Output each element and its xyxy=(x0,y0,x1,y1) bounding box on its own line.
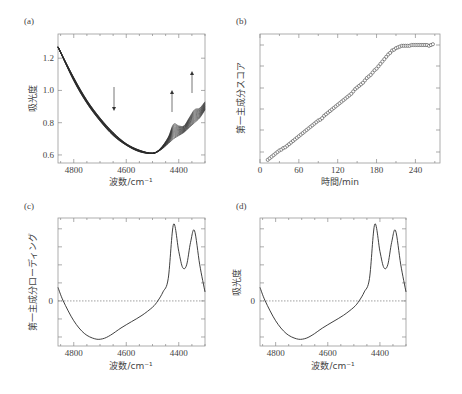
x-tick-label: 0 xyxy=(258,165,263,175)
x-tick-label: 4600 xyxy=(319,348,338,358)
panel-b-ticks: 060120180240 xyxy=(258,34,440,175)
score-point xyxy=(431,43,434,46)
x-tick-label: 60 xyxy=(294,165,304,175)
panel-c-loading xyxy=(58,224,205,340)
x-tick-label: 4400 xyxy=(371,348,390,358)
panel-b-ylabel: 第一主成分スコア xyxy=(235,62,246,134)
figure: (a) 4800460044000.60.81.01.2 波数/cm⁻¹ 吸光度… xyxy=(0,0,462,394)
panel-c-ticks: 4800460044000 xyxy=(49,218,206,358)
y-tick-label: 0 xyxy=(251,296,256,306)
x-tick-label: 240 xyxy=(409,165,423,175)
panel-a-ylabel: 吸光度 xyxy=(27,85,38,112)
spectrum-line xyxy=(58,47,205,153)
panel-b-xlabel: 時間/min xyxy=(321,177,359,187)
loading-line xyxy=(260,224,406,340)
spectrum-line xyxy=(58,47,205,154)
spectrum-line xyxy=(58,47,205,153)
spectrum-line xyxy=(58,47,205,154)
panel-b-frame xyxy=(260,34,440,163)
panel-d: (d) 4800460044000 波数/cm⁻¹ 吸光度 xyxy=(231,201,406,371)
spectrum-line xyxy=(58,47,205,153)
spectrum-line xyxy=(58,47,205,153)
x-tick-label: 4800 xyxy=(65,348,84,358)
spectrum-line xyxy=(58,47,205,153)
arrow-up-head-icon xyxy=(170,90,174,94)
panel-a-ticks: 4800460044000.60.81.01.2 xyxy=(43,34,205,175)
spectrum-line xyxy=(58,47,205,153)
x-tick-label: 4800 xyxy=(65,165,84,175)
panel-d-label: (d) xyxy=(236,201,247,211)
x-tick-label: 4600 xyxy=(117,165,136,175)
panel-c-label: (c) xyxy=(24,201,34,211)
panel-c-ylabel: 第一主成分ローディング xyxy=(27,233,38,331)
x-tick-label: 180 xyxy=(370,165,384,175)
x-tick-label: 4600 xyxy=(117,348,136,358)
x-tick-label: 4800 xyxy=(267,348,286,358)
panel-a-arrows xyxy=(112,71,194,112)
loading-line xyxy=(58,224,205,340)
panel-c-xlabel: 波数/cm⁻¹ xyxy=(109,360,152,371)
arrow-down-head-icon xyxy=(112,107,116,111)
y-tick-label: 0.8 xyxy=(43,118,55,128)
panel-d-spectrum xyxy=(260,224,406,340)
panel-d-frame xyxy=(260,218,406,346)
spectrum-line xyxy=(58,47,205,153)
spectrum-line xyxy=(58,47,205,153)
panel-b-label: (b) xyxy=(236,16,247,26)
y-tick-label: 0 xyxy=(49,296,54,306)
x-tick-label: 4400 xyxy=(170,348,189,358)
panel-d-xlabel: 波数/cm⁻¹ xyxy=(311,360,354,371)
x-tick-label: 120 xyxy=(331,165,345,175)
panel-d-ticks: 4800460044000 xyxy=(251,218,407,358)
y-tick-label: 0.6 xyxy=(43,150,55,160)
y-tick-label: 1.0 xyxy=(43,85,55,95)
panel-a-label: (a) xyxy=(24,16,34,26)
panel-a-xlabel: 波数/cm⁻¹ xyxy=(109,176,152,187)
spectrum-line xyxy=(58,47,205,154)
panel-d-ylabel: 吸光度 xyxy=(231,269,242,296)
panel-a-spectra xyxy=(58,47,205,154)
spectrum-line xyxy=(58,47,205,153)
panel-a: (a) 4800460044000.60.81.01.2 波数/cm⁻¹ 吸光度 xyxy=(24,16,205,187)
y-tick-label: 1.2 xyxy=(43,53,54,63)
spectrum-line xyxy=(58,47,205,154)
panel-c: (c) 4800460044000 波数/cm⁻¹ 第一主成分ローディング xyxy=(24,201,205,371)
arrow-up-head-icon xyxy=(190,71,194,75)
panel-b: (b) 060120180240 時間/min 第一主成分スコア xyxy=(235,16,440,187)
spectrum-line xyxy=(58,47,205,154)
panel-c-frame xyxy=(58,218,205,346)
panel-b-scores xyxy=(266,43,434,162)
x-tick-label: 4400 xyxy=(170,165,189,175)
panel-a-frame xyxy=(58,34,205,163)
